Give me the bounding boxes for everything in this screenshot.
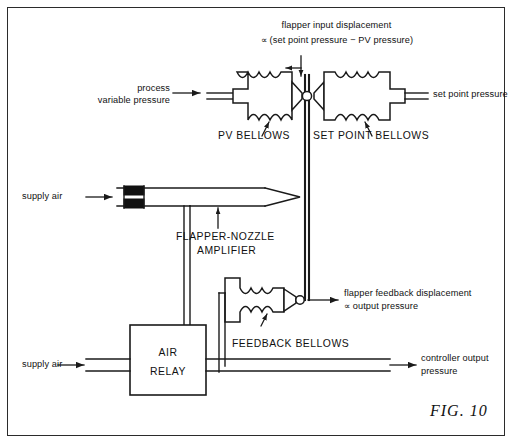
set-point-pressure-label: set point pressure — [433, 89, 508, 100]
pivot-circle-icon — [302, 91, 311, 100]
controller-output-label-line1: controller output — [421, 353, 489, 364]
process-variable-pressure-label-line2: variable pressure — [46, 95, 170, 106]
air-relay-label-line2: RELAY — [130, 366, 206, 378]
feedback-bellows-label: FEEDBACK BELLOWS — [232, 338, 349, 350]
feedback-pivot-circle-icon — [296, 296, 304, 304]
supply-air-top-label: supply air — [22, 191, 62, 202]
flapper-rod-icon — [305, 75, 309, 300]
diagram-canvas — [0, 0, 514, 445]
supply-air-bottom-pipe — [86, 359, 130, 371]
flapper-input-displacement-label-line1: flapper input displacement — [239, 20, 434, 31]
flapper-nozzle-amplifier-label-line1: FLAPPER-NOZZLE — [176, 231, 275, 243]
feedback-displacement-label-line2: ∝ output pressure — [344, 301, 418, 312]
setpoint-inlet-pipe — [405, 93, 428, 99]
feedback-line — [219, 293, 225, 372]
feedback-bellows-leader-icon — [261, 314, 267, 326]
feedback-bellows-icon — [225, 278, 296, 322]
set-point-bellows-label: SET POINT BELLOWS — [313, 130, 429, 142]
orifice-restriction-icon — [124, 186, 144, 208]
air-relay-box-icon — [130, 325, 206, 395]
controller-output-label-line2: pressure — [421, 366, 458, 377]
supply-air-bottom-label: supply air — [22, 359, 62, 370]
pv-bellows-label: PV BELLOWS — [218, 130, 290, 142]
figure-root: flapper input displacement ∝ (set point … — [0, 0, 514, 445]
pv-bellows-icon — [233, 72, 302, 120]
process-variable-pressure-label-line1: process — [60, 83, 170, 94]
air-relay-label-line1: AIR — [130, 347, 206, 359]
controller-output-pipe — [206, 359, 390, 371]
flapper-nozzle-amplifier-label-line2: AMPLIFIER — [197, 245, 256, 257]
figure-number-label: FIG. 10 — [430, 402, 488, 420]
setpoint-bellows-icon — [314, 72, 405, 120]
nozzle-to-relay-pipe — [184, 206, 190, 325]
pv-inlet-pipe — [207, 93, 233, 99]
nozzle-taper-icon — [190, 188, 300, 206]
flapper-input-displacement-label-line2: ∝ (set point pressure − PV pressure) — [226, 35, 448, 46]
feedback-displacement-label-line1: flapper feedback displacement — [344, 288, 472, 299]
